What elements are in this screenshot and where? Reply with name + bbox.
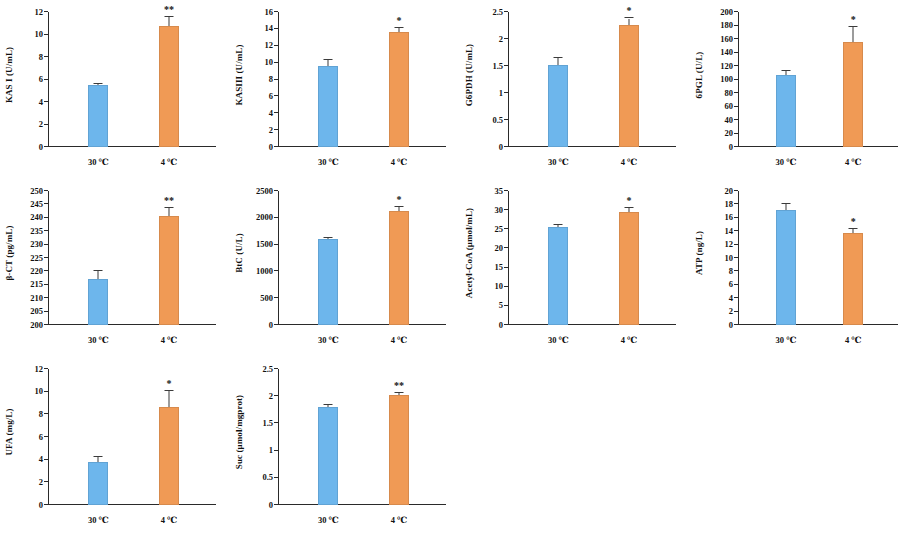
y-tick-label: 12 [35, 365, 44, 374]
error-bar [558, 225, 559, 227]
bar-kas-i-0[interactable] [88, 85, 108, 147]
y-tick-label: 10 [35, 30, 44, 39]
y-tick-label: 2000 [256, 214, 273, 223]
error-bar-cap [394, 27, 403, 28]
y-tick-label: 0.5 [262, 474, 273, 483]
y-tick-label: 220 [30, 267, 43, 276]
x-axis-labels: 30 ℃4 ℃ [278, 509, 446, 523]
y-tick-label: 8 [39, 410, 43, 419]
significance-marker: * [626, 196, 631, 206]
y-tick-label: 16 [265, 8, 274, 17]
x-tick-label: 4 ℃ [161, 335, 178, 345]
y-tick-label: 0 [269, 143, 273, 152]
error-bar-cap [324, 404, 333, 405]
y-tick-label: 20 [725, 129, 734, 138]
error-bar [853, 27, 854, 42]
y-tick-label: 1 [499, 89, 503, 98]
x-axis-labels: 30 ℃4 ℃ [48, 151, 216, 165]
bar-atp-0[interactable] [776, 210, 796, 325]
y-tick-label: 12 [725, 240, 734, 249]
error-bar-cap [94, 83, 103, 84]
y-axis-label-atp: ATP (ng/L) [692, 179, 706, 327]
bar-beta-ct-0[interactable] [88, 279, 108, 325]
y-tick-label: 8 [729, 267, 733, 276]
bar-ufa-0[interactable] [88, 462, 108, 505]
bar-suc-0[interactable] [318, 407, 338, 505]
x-tick-label: 30 ℃ [318, 515, 339, 525]
x-tick-label: 30 ℃ [776, 335, 797, 345]
bar-suc-1[interactable] [389, 395, 409, 505]
x-axis-labels: 30 ℃4 ℃ [278, 151, 446, 165]
bar-6pgl-1[interactable] [843, 42, 863, 147]
chart-panel-btc: BtC (U/L)05001000150020002500*30 ℃4 ℃ [230, 179, 460, 357]
y-tick-label: 8 [269, 75, 273, 84]
bar-group: * [508, 191, 676, 325]
error-bar-cap [164, 390, 173, 391]
error-bar [168, 208, 169, 216]
y-axis-label-beta-ct: β-CT (pg/mL) [2, 179, 16, 327]
chart-panel-kas-iii: KASIII (U/mL)0246810121416*30 ℃4 ℃ [230, 0, 460, 179]
bar-kas-iii-1[interactable] [389, 32, 409, 147]
x-tick-label: 4 ℃ [161, 157, 178, 167]
y-axis-label-acetyl-coa: Acetyl-CoA (μmol/mL) [462, 179, 476, 327]
x-tick-label: 4 ℃ [621, 335, 638, 345]
bar-beta-ct-1[interactable] [159, 216, 179, 325]
bar-atp-1[interactable] [843, 233, 863, 325]
error-bar [558, 58, 559, 64]
y-tick-label: 120 [720, 62, 733, 71]
y-tick-label: 0 [499, 143, 503, 152]
y-tick-label: 0 [499, 321, 503, 330]
y-axis-label-kas-i: KAS I (U/mL) [2, 0, 16, 149]
y-axis-label-kas-iii: KASIII (U/mL) [232, 0, 246, 149]
bar-kas-i-1[interactable] [159, 26, 179, 147]
x-tick-label: 4 ℃ [391, 335, 408, 345]
chart-panel-beta-ct: β-CT (pg/mL)2002052102152202252302352402… [0, 179, 230, 357]
bar-acetyl-coa-1[interactable] [619, 212, 639, 325]
y-tick-label: 40 [725, 116, 734, 125]
plot-area-btc: 05001000150020002500* [278, 191, 446, 325]
x-tick-label: 30 ℃ [548, 157, 569, 167]
bar-kas-iii-0[interactable] [318, 66, 338, 147]
y-tick-label: 6 [39, 433, 43, 442]
bar-group: * [278, 12, 446, 147]
error-bar-cap [554, 224, 563, 225]
y-tick-label: 18 [725, 200, 734, 209]
x-tick-label: 30 ℃ [318, 157, 339, 167]
y-axis-label-text: Suc (μmol/mgprot) [234, 395, 244, 469]
bar-g6pdh-0[interactable] [548, 65, 568, 147]
y-axis-label-btc: BtC (U/L) [232, 179, 246, 327]
error-bar-cap [324, 59, 333, 60]
bar-group: * [278, 191, 446, 325]
chart-panel-ufa: UFA (mg/L)024681012*30 ℃4 ℃ [0, 357, 230, 537]
x-tick-label: 30 ℃ [318, 335, 339, 345]
figure-grid: KAS I (U/mL)024681012**30 ℃4 ℃KASIII (U/… [0, 0, 912, 537]
bar-btc-1[interactable] [389, 211, 409, 325]
bar-g6pdh-1[interactable] [619, 25, 639, 147]
bar-group: * [48, 369, 216, 505]
y-tick-label: 4 [729, 294, 733, 303]
error-bar-cap [782, 203, 791, 204]
bar-acetyl-coa-0[interactable] [548, 227, 568, 325]
y-tick-label: 80 [725, 89, 734, 98]
error-bar-cap [849, 228, 858, 229]
y-axis-label-text: KASIII (U/mL) [234, 44, 244, 105]
bar-6pgl-0[interactable] [776, 75, 796, 147]
significance-marker: * [851, 15, 856, 25]
significance-marker: * [396, 195, 401, 205]
significance-marker: * [396, 16, 401, 26]
y-tick-label: 1.5 [492, 62, 503, 71]
y-tick-label: 35 [495, 187, 504, 196]
x-axis-labels: 30 ℃4 ℃ [508, 151, 676, 165]
error-bar [786, 204, 787, 210]
y-tick-label: 20 [725, 187, 734, 196]
y-axis-label-6pgl: 6PGL (U/L) [692, 0, 706, 149]
x-axis-labels: 30 ℃4 ℃ [738, 329, 898, 343]
significance-marker: * [851, 217, 856, 227]
y-tick-label: 2 [269, 392, 273, 401]
y-tick-label: 30 [495, 206, 504, 215]
bar-ufa-1[interactable] [159, 407, 179, 505]
y-tick-label: 12 [265, 42, 274, 51]
bar-btc-0[interactable] [318, 239, 338, 325]
y-tick-label: 10 [265, 58, 274, 67]
y-tick-label: 2.5 [262, 365, 273, 374]
